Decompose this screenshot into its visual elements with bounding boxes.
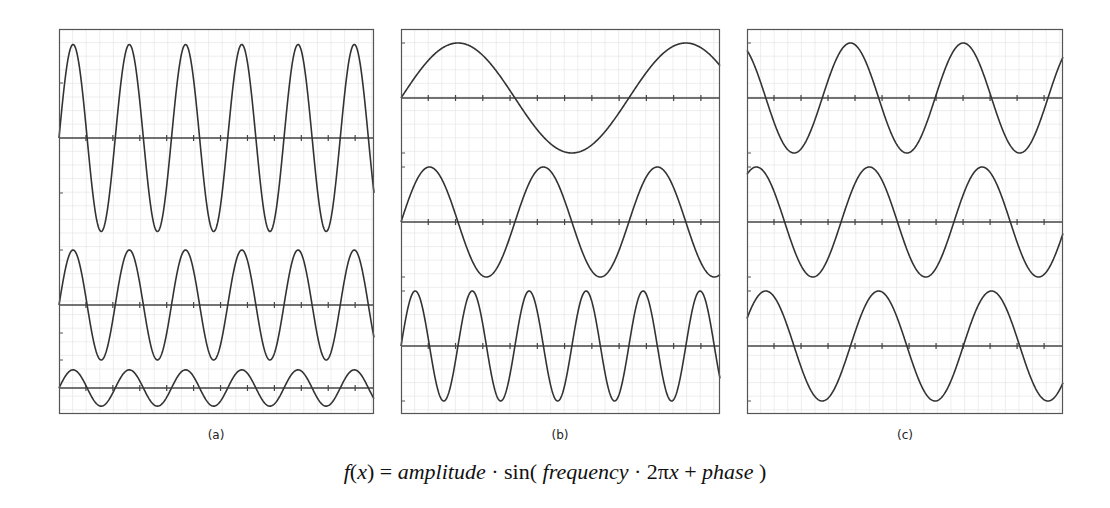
panel-b-frequency <box>401 29 720 414</box>
formula-phase: phase <box>702 459 759 484</box>
panel-label-a: (a) <box>186 428 246 442</box>
formula: f(x) = amplitude · sin( frequency · 2πx … <box>0 459 1110 485</box>
plot-area <box>747 29 1063 414</box>
panel-label-b: (b) <box>530 428 590 442</box>
panel-label-c: (c) <box>875 428 935 442</box>
formula-frequency: frequency <box>537 459 628 484</box>
formula-amplitude: amplitude <box>398 459 486 484</box>
panel-c-phase <box>747 29 1063 414</box>
plot-area <box>401 29 720 414</box>
plot-area <box>59 29 374 414</box>
panel-a-amplitude <box>59 29 374 414</box>
formula-sin: sin <box>504 459 530 484</box>
